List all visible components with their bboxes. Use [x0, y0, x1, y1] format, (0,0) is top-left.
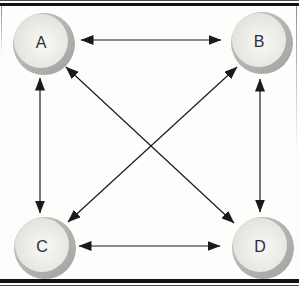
node-label: D: [254, 238, 266, 255]
edge-B-C: [68, 67, 237, 222]
node-label: B: [254, 33, 265, 50]
edge-A-D: [66, 67, 234, 223]
network-diagram-figure: A B C D: [0, 0, 299, 287]
network-graph: A B C D: [0, 0, 299, 287]
node-B: B: [231, 12, 293, 74]
node-C: C: [14, 217, 76, 279]
node-D: D: [232, 217, 294, 279]
node-label: C: [36, 238, 48, 255]
node-label: A: [36, 34, 47, 51]
node-A: A: [13, 13, 75, 75]
